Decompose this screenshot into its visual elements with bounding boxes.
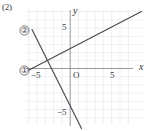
y-tick-positive-five: 5: [62, 23, 67, 32]
figure-container: (2): [0, 0, 151, 131]
x-tick-positive-five: 5: [110, 71, 115, 80]
y-axis-label: y: [73, 6, 77, 16]
y-tick-negative-five: −5: [57, 108, 67, 117]
line-1-tag: ①: [19, 65, 30, 76]
line-2-tag-label: ②: [19, 27, 30, 35]
x-axis-label: x: [139, 62, 143, 72]
origin-label: O: [73, 71, 80, 80]
x-tick-negative-five: −5: [31, 71, 41, 80]
line-2-tag: ②: [19, 25, 30, 36]
line-1-tag-label: ①: [19, 67, 30, 75]
grid-horizontal-lines: [26, 12, 143, 118]
grid-vertical-lines: [29, 10, 129, 124]
